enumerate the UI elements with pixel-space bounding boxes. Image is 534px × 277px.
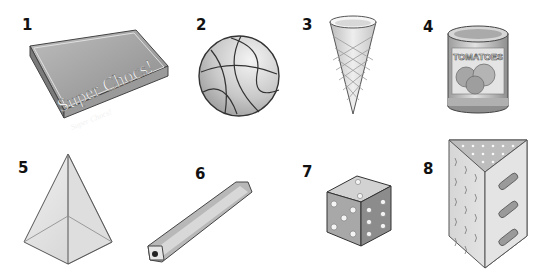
dice-image	[325, 172, 405, 252]
item-number-7: 7	[302, 163, 312, 181]
pyramid-image	[22, 152, 118, 268]
pencil-image	[140, 168, 260, 268]
grater-image	[447, 138, 529, 270]
item-number-4: 4	[423, 18, 433, 36]
item-number-3: 3	[302, 16, 312, 34]
can-label: TOMATOES	[453, 52, 503, 62]
item-number-8: 8	[423, 160, 433, 178]
basketball-image	[197, 34, 281, 118]
item-number-2: 2	[196, 16, 206, 34]
chocolate-box-image: Super Chocs! Super Chocs!	[28, 28, 178, 118]
tomato-can-image: TOMATOES	[446, 24, 510, 116]
ice-cream-cone-image	[328, 14, 378, 114]
